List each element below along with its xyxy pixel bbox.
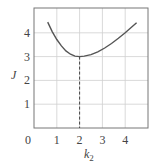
chart: 01234 1234 J k2 — [0, 0, 156, 167]
x-axis-label: k2 — [84, 147, 94, 163]
y-axis-label: J — [11, 68, 17, 82]
y-tick-label: 1 — [24, 97, 30, 111]
x-tick-label: 2 — [77, 133, 83, 147]
y-tick-label: 2 — [24, 73, 30, 87]
x-tick-label: 4 — [122, 133, 128, 147]
y-tick-label: 3 — [24, 50, 30, 64]
grid — [34, 8, 148, 128]
x-axis-ticks: 01234 — [25, 133, 128, 147]
y-tick-label: 4 — [24, 26, 30, 40]
x-tick-label: 1 — [54, 133, 60, 147]
plot-frame — [34, 8, 148, 128]
x-tick-label: 0 — [25, 133, 31, 147]
x-tick-label: 3 — [99, 133, 105, 147]
j-curve — [48, 22, 137, 57]
y-axis-ticks: 1234 — [24, 26, 30, 111]
